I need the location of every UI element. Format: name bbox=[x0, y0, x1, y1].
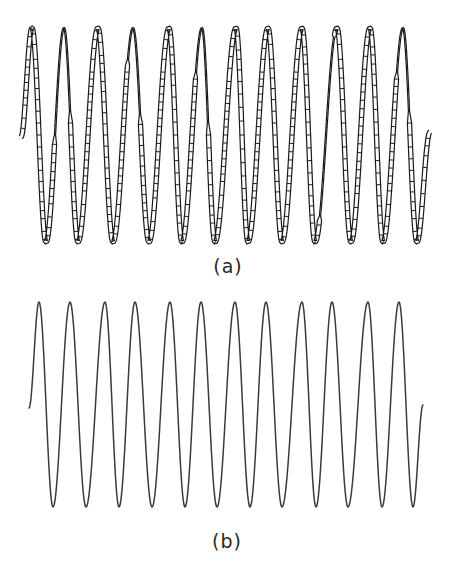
panel-a-ribbon-wave bbox=[19, 26, 431, 244]
ribbon-rung bbox=[215, 234, 219, 235]
panel-b-label: (b) bbox=[177, 530, 277, 552]
ribbon-rung bbox=[231, 38, 235, 39]
ribbon-rung bbox=[367, 29, 371, 30]
ribbon-rung bbox=[298, 30, 302, 31]
ribbon-rail-left bbox=[23, 29, 432, 245]
ribbon-rung bbox=[263, 39, 267, 40]
ribbon-rung bbox=[336, 34, 340, 35]
figure-canvas bbox=[0, 0, 453, 563]
ribbon-rung bbox=[264, 30, 268, 31]
ribbon-rung bbox=[93, 39, 97, 40]
ribbon-rung bbox=[351, 236, 355, 237]
panel-b-line-wave bbox=[29, 302, 423, 507]
ribbon-rung bbox=[297, 39, 301, 40]
ribbon-rung bbox=[249, 230, 253, 231]
ribbon-rung bbox=[97, 33, 101, 34]
ribbon-rung bbox=[247, 239, 251, 240]
ribbon-rung bbox=[164, 39, 168, 40]
ribbon-rung bbox=[317, 225, 321, 226]
ribbon-rung bbox=[383, 234, 387, 235]
ribbon-rung bbox=[113, 234, 117, 235]
ribbon-rung bbox=[216, 227, 220, 228]
ribbon-rung bbox=[94, 30, 98, 31]
ribbon-rung bbox=[31, 34, 35, 35]
ribbon-rung bbox=[182, 234, 186, 235]
ribbon-rung bbox=[150, 230, 154, 231]
ribbon-rung bbox=[365, 37, 369, 38]
ribbon-rung bbox=[165, 30, 169, 31]
ribbon-rung bbox=[21, 128, 25, 129]
ribbon-rung bbox=[426, 138, 430, 139]
ribbon-rung bbox=[145, 237, 149, 238]
ribbon-rung bbox=[267, 34, 271, 35]
sine-wave-line bbox=[29, 302, 423, 507]
panel-a-label: (a) bbox=[178, 255, 278, 277]
ribbon-rung bbox=[46, 235, 50, 236]
ribbon-rung bbox=[28, 36, 32, 37]
ribbon-rung bbox=[417, 235, 421, 236]
